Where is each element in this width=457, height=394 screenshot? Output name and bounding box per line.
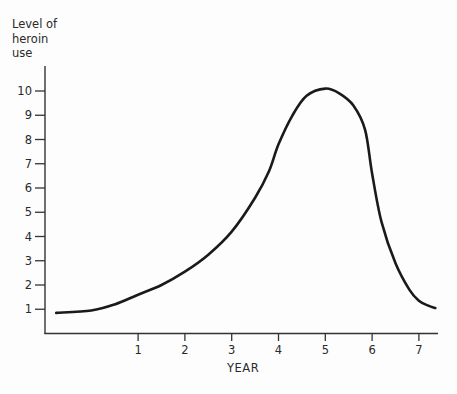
y-tick-label: 7 bbox=[25, 157, 32, 171]
y-tick-label: 4 bbox=[25, 230, 32, 244]
line-chart: 12345678910 1234567 bbox=[0, 0, 457, 394]
x-tick-label: 3 bbox=[228, 343, 235, 357]
x-tick-label: 2 bbox=[181, 343, 188, 357]
y-tick-label: 6 bbox=[25, 181, 32, 195]
x-tick-label: 1 bbox=[134, 343, 141, 357]
x-tick-label: 4 bbox=[275, 343, 282, 357]
heroin-use-curve bbox=[56, 89, 435, 313]
y-tick-label: 2 bbox=[25, 278, 32, 292]
y-tick-label: 3 bbox=[25, 254, 32, 268]
y-axis: 12345678910 bbox=[17, 66, 45, 334]
x-tick-label: 5 bbox=[322, 343, 329, 357]
y-tick-label: 1 bbox=[25, 302, 32, 316]
x-axis: 1234567 bbox=[45, 333, 439, 357]
y-tick-label: 9 bbox=[25, 108, 32, 122]
y-tick-label: 8 bbox=[25, 133, 32, 147]
y-tick-label: 5 bbox=[25, 205, 32, 219]
x-tick-label: 6 bbox=[368, 343, 375, 357]
x-tick-label: 7 bbox=[415, 343, 422, 357]
y-tick-label: 10 bbox=[17, 84, 32, 98]
